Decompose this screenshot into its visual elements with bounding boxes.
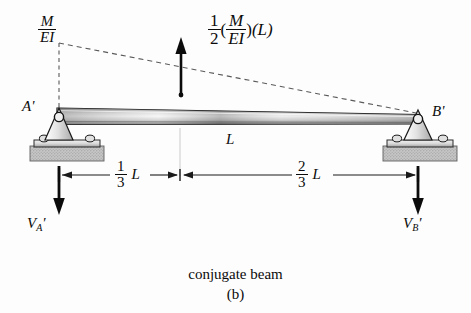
dim-arrow-right: [406, 172, 416, 179]
mei-load-label: M EI: [38, 14, 56, 46]
reaction-VB-symbol: V: [403, 215, 412, 231]
reaction-VA-symbol: V: [27, 215, 36, 231]
dim1-numerator: 1: [115, 159, 127, 174]
reaction-label-VB: VB′: [403, 215, 422, 233]
arrow-tail-dot: [179, 93, 184, 98]
reaction-VB-prime: ′: [418, 215, 421, 231]
reaction-label-VA: VA′: [27, 215, 46, 233]
pin-hole-left: [54, 112, 63, 121]
dim2-unit: L: [313, 166, 321, 183]
mei-denominator: EI: [38, 29, 56, 45]
dimension-label-one-third-L: 1 3 L: [115, 159, 140, 191]
dim-arrow-mid-right: [183, 172, 193, 179]
mei-numerator: M: [38, 14, 56, 29]
dimension-label-two-thirds-L: 2 3 L: [296, 159, 321, 191]
arrowhead-down-left: [53, 198, 65, 215]
load-hypotenuse-dashed: [59, 43, 416, 113]
bolt-right-inner: [392, 135, 401, 142]
conjugate-beam-bar: [57, 108, 419, 125]
dim1-denominator: 3: [115, 174, 127, 190]
figure-caption-part: (b): [0, 286, 471, 303]
resultant-coefficient-numerator: 1: [208, 12, 221, 29]
support-label-B: B': [432, 103, 444, 120]
dim2-numerator: 2: [296, 159, 308, 174]
foundation-block-left: [30, 146, 104, 161]
arrowhead-down-right: [412, 198, 424, 215]
resultant-force-label: 1 2 ( M EI ) (L): [208, 12, 273, 48]
figure-caption: conjugate beam: [0, 266, 471, 283]
dim2-denominator: 3: [296, 174, 308, 190]
dim-arrow-left: [62, 172, 72, 179]
beam-span-label: L: [226, 131, 234, 148]
dim1-unit: L: [132, 166, 140, 183]
pin-hole-right: [413, 114, 422, 123]
resultant-length-term: (L): [252, 20, 273, 40]
support-label-A: A': [22, 98, 34, 115]
bolt-right-outer: [438, 135, 447, 142]
resultant-term-numerator: M: [226, 12, 246, 29]
resultant-term-denominator: EI: [226, 29, 246, 47]
dim-arrow-mid-left: [168, 172, 178, 179]
resultant-coefficient-denominator: 2: [208, 29, 221, 47]
arrowhead-up: [175, 37, 186, 54]
bolt-left-inner: [85, 135, 94, 142]
foundation-block-right: [383, 146, 457, 161]
reaction-VA-prime: ′: [42, 215, 45, 231]
mei-load-triangle: [59, 43, 416, 113]
